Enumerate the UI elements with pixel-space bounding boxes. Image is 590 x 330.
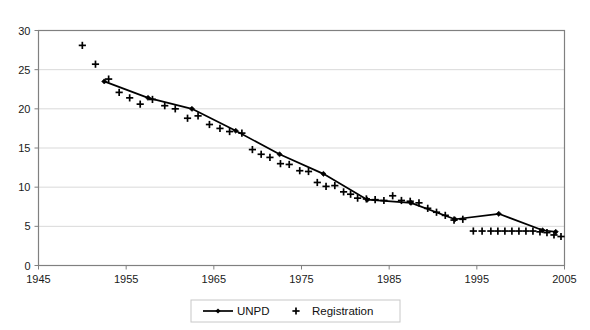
y-axis-tick-label: 10 bbox=[18, 181, 30, 193]
x-axis-tick-label: 1995 bbox=[465, 273, 489, 285]
chart-container: 051015202530 194519551965197519851995200… bbox=[0, 0, 590, 330]
y-axis-tick-label: 15 bbox=[18, 142, 30, 154]
x-axis-tick-label: 1945 bbox=[26, 273, 50, 285]
y-axis-tick-label: 5 bbox=[24, 220, 30, 232]
y-axis-tick-label: 20 bbox=[18, 103, 30, 115]
x-axis-tick-label: 1975 bbox=[289, 273, 313, 285]
legend-label-unpd: UNPD bbox=[237, 305, 270, 317]
x-axis-tick-label: 1985 bbox=[377, 273, 401, 285]
line-chart: 051015202530 194519551965197519851995200… bbox=[0, 0, 590, 330]
x-axis-tick-label: 2005 bbox=[552, 273, 576, 285]
x-axis-tick-label: 1965 bbox=[202, 273, 226, 285]
legend-label-registration: Registration bbox=[312, 305, 373, 317]
y-axis-tick-label: 25 bbox=[18, 64, 30, 76]
y-axis-tick-label: 0 bbox=[24, 260, 30, 272]
legend: UNPDRegistration bbox=[191, 300, 400, 322]
x-axis-tick-label: 1955 bbox=[114, 273, 138, 285]
y-axis-tick-label: 30 bbox=[18, 25, 30, 37]
